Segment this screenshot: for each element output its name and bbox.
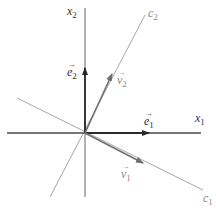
vector-arrow-accent-icon: → bbox=[145, 109, 153, 118]
basis-vector-diagram: x2 x1 e2 → e1 → v2 → v1 → c2 c1 bbox=[0, 0, 216, 214]
vector-arrow-accent-icon: → bbox=[68, 60, 76, 69]
line-c1 bbox=[17, 98, 203, 190]
c2-line-label: c2 bbox=[148, 6, 158, 22]
e2-label: e2 → bbox=[67, 60, 77, 81]
e1-label: e1 → bbox=[144, 109, 154, 130]
vector-arrow-accent-icon: → bbox=[118, 68, 126, 77]
v1-label: v1 → bbox=[121, 162, 131, 183]
vector-arrow-accent-icon: → bbox=[122, 162, 130, 171]
c1-line-label: c1 bbox=[203, 191, 213, 207]
v2-label: v2 → bbox=[117, 68, 127, 89]
x1-axis-label: x1 bbox=[194, 111, 205, 127]
x2-axis-label: x2 bbox=[66, 4, 77, 20]
vector-v1 bbox=[85, 133, 143, 163]
vector-v2 bbox=[85, 74, 112, 133]
